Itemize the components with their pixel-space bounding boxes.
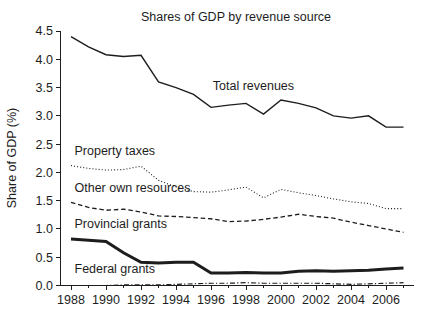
x-axis-tick-label: 1988 <box>57 293 85 307</box>
x-axis-tick-label: 1990 <box>92 293 120 307</box>
line-chart-canvas: Shares of GDP by revenue source Share of… <box>0 0 421 314</box>
y-axis-tick-label: 4.0 <box>36 53 53 67</box>
y-axis-tick-label: 4.5 <box>36 24 53 38</box>
y-axis-tick-label: 2.5 <box>36 138 53 152</box>
y-axis-title-group: Share of GDP (%) <box>5 108 19 209</box>
series-label-property-taxes: Property taxes <box>75 144 156 158</box>
chart-figure: Shares of GDP by revenue source Share of… <box>0 0 421 314</box>
series-label-federal-grants: Federal grants <box>75 262 156 276</box>
series-label-total-revenues: Total revenues <box>213 79 294 93</box>
x-axis-tick-label: 1994 <box>162 293 190 307</box>
x-axis-tick-label: 2004 <box>337 293 365 307</box>
series-label-provincial-grants: Provincial grants <box>75 217 167 231</box>
x-axis-group: 1988199019921994199619982000200220042006 <box>57 286 414 307</box>
y-axis-tick-label: 0.0 <box>36 279 53 293</box>
series-annotations-group: Total revenuesProperty taxesOther own re… <box>75 79 295 276</box>
y-axis-group: 0.00.51.01.52.02.53.03.54.04.5 <box>36 24 61 293</box>
x-axis-tick-label: 1996 <box>197 293 225 307</box>
x-axis-tick-label: 2002 <box>302 293 330 307</box>
y-axis-tick-label: 0.5 <box>36 251 53 265</box>
x-axis-tick-label: 1992 <box>127 293 155 307</box>
y-axis-tick-label: 3.0 <box>36 109 53 123</box>
y-axis-tick-label: 3.5 <box>36 81 53 95</box>
x-axis-tick-label: 2006 <box>372 293 400 307</box>
series-label-other-own-resources: Other own resources <box>75 181 191 195</box>
series-lines-group <box>71 37 404 286</box>
x-axis-tick-label: 2000 <box>267 293 295 307</box>
chart-title-group: Shares of GDP by revenue source <box>141 10 331 24</box>
y-axis-tick-label: 2.0 <box>36 166 53 180</box>
x-axis-tick-label: 1998 <box>232 293 260 307</box>
y-axis-tick-label: 1.5 <box>36 194 53 208</box>
chart-title: Shares of GDP by revenue source <box>141 10 331 24</box>
y-axis-tick-label: 1.0 <box>36 222 53 236</box>
y-axis-title: Share of GDP (%) <box>5 108 19 209</box>
